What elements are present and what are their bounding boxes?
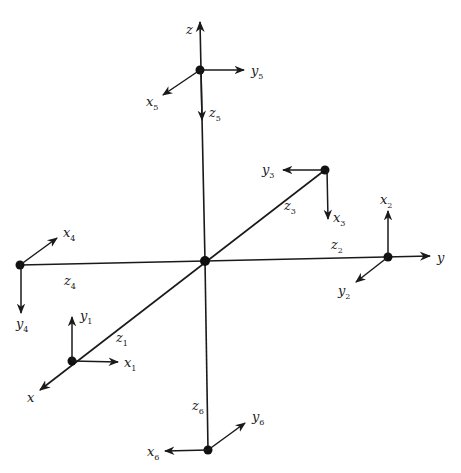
frame-1-z-label: z1 (115, 330, 128, 348)
frame-2: x2 y2 z2 (330, 192, 393, 301)
global-y-axis (205, 256, 430, 261)
frame-2-z-label: z2 (330, 237, 343, 255)
frame-5: y5 x5 z5 (146, 63, 263, 123)
frame-4-x-label: x4 (63, 225, 75, 243)
frame-6: x6 y6 z6 (147, 380, 264, 462)
frame-6-x-vector (165, 450, 208, 451)
frame-3-x-vector (327, 170, 328, 219)
frame-1-x-label: x1 (124, 355, 136, 373)
frame-4-x-vector (20, 238, 57, 265)
frame-1-x-vector (72, 361, 118, 362)
frame-1-y-label: y1 (79, 308, 92, 326)
frame-3: y3 x3 z3 (261, 162, 345, 228)
frame-2-x-label: x2 (380, 192, 392, 210)
global-z-axis (200, 22, 205, 261)
frame-4-z-label: z4 (63, 273, 76, 291)
frame-2-y-vector (356, 257, 388, 282)
global-negative-y-axis (20, 261, 205, 265)
frame-5-z-label: z5 (208, 105, 221, 123)
frame-3-z-label: z3 (283, 198, 296, 216)
frame-6-y-label: y6 (251, 409, 264, 427)
frame-4-y-label: y4 (15, 316, 28, 334)
frame-3-y-label: y3 (261, 162, 274, 180)
frame-4: x4 y4 z4 (15, 225, 120, 334)
frame-5-y-label: y5 (250, 63, 263, 81)
frame-6-x-label: x6 (147, 444, 159, 462)
frame-5-x-label: x5 (146, 94, 158, 112)
frame-6-y-vector (208, 423, 245, 450)
z-axis-label: z (185, 22, 193, 37)
coordinate-frames-diagram: z y x y5 x5 z5 y3 x3 z3 x2 y2 z2 (0, 0, 461, 473)
frame-3-x-label: x3 (333, 210, 345, 228)
frame-6-z-label: z6 (191, 398, 204, 416)
origin-node (200, 256, 210, 266)
global-negative-z-axis (205, 261, 208, 450)
frame-5-z-vector (201, 70, 202, 120)
frame-2-y-label: y2 (337, 283, 350, 301)
global-x-axis (40, 170, 325, 390)
frame-5-x-vector (163, 70, 200, 95)
y-axis-label: y (436, 250, 445, 265)
x-axis-label: x (27, 390, 35, 405)
